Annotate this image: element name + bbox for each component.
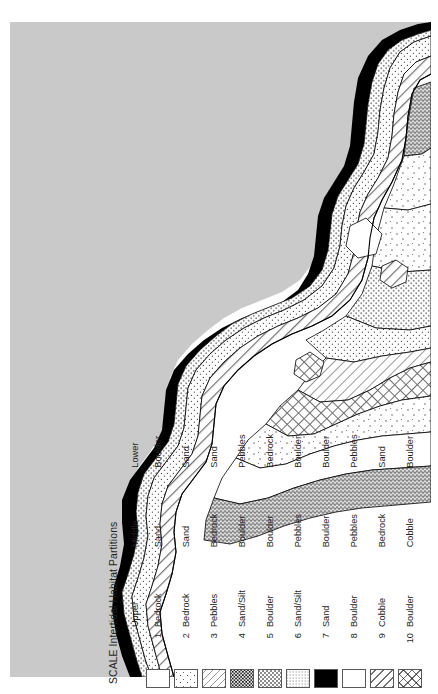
legend-cell-middle: Sand	[144, 468, 172, 548]
legend-row: 2BedrockSandSand	[172, 388, 200, 688]
legend-row: 1BedrockSandBoulder	[144, 388, 172, 688]
legend-title: SCALE Intertidal Habitat Partitions	[108, 392, 119, 684]
legend-cell-middle: Bedrock	[200, 468, 228, 548]
legend-swatch-cell	[144, 656, 172, 688]
legend-cell-upper: Boulder	[396, 547, 424, 627]
legend-cell-no: 4	[228, 627, 256, 656]
legend-swatch-cell	[312, 656, 340, 688]
legend-cell-upper: Boulder	[256, 547, 284, 627]
legend-cell-middle: Pebbles	[340, 468, 368, 548]
legend-cell-upper: Boulder	[340, 547, 368, 627]
legend-cell-upper: Pebbles	[200, 547, 228, 627]
legend-swatch-diagonal-hatch	[370, 669, 394, 688]
legend-cell-middle: Boulder	[256, 468, 284, 548]
legend-header-swatch	[130, 656, 144, 688]
legend-cell-no: 9	[368, 627, 396, 656]
legend-swatch-cell	[200, 656, 228, 688]
figure-root: SCALE Intertidal Habitat Partitions Uppe…	[0, 0, 438, 694]
legend-cell-no: 2	[172, 627, 200, 656]
legend-cell-lower: Sand	[368, 388, 396, 468]
legend-swatch-light-diagonal	[202, 669, 226, 688]
legend-header-upper: Upper	[130, 547, 144, 627]
legend-header-lower: Lower	[130, 388, 144, 468]
legend-cell-lower: Sand	[172, 388, 200, 468]
legend-cell-lower: Pebbles	[340, 388, 368, 468]
legend-cell-middle: Boulder	[312, 468, 340, 548]
legend-swatch-fine-stipple	[146, 669, 170, 688]
legend-cell-no: 10	[396, 627, 424, 656]
legend-cell-middle: Bedrock	[368, 468, 396, 548]
legend-cell-lower: Sand	[200, 388, 228, 468]
legend-row: 4Sand/SiltBoulderPebbles	[228, 388, 256, 688]
legend-header-row: Upper Middle Lower	[130, 388, 144, 688]
legend-cell-upper: Sand	[312, 547, 340, 627]
legend-swatch-dense-texture	[286, 669, 310, 688]
legend-cell-upper: Bedrock	[144, 547, 172, 627]
legend-cell-upper: Sand/Silt	[284, 547, 312, 627]
legend-swatch-cell	[172, 656, 200, 688]
legend-body: 1BedrockSandBoulder2BedrockSandSand3Pebb…	[144, 388, 424, 688]
legend-swatch-dense-speckle	[230, 669, 254, 688]
legend-cell-lower: Boulder	[312, 388, 340, 468]
legend-cell-no: 8	[340, 627, 368, 656]
legend-row: 8BoulderPebblesPebbles	[340, 388, 368, 688]
legend-cell-upper: Sand/Silt	[228, 547, 256, 627]
legend-cell-middle: Boulder	[228, 468, 256, 548]
legend-swatch-sparse-stipple	[174, 669, 198, 688]
legend-cell-upper: Cobble	[368, 547, 396, 627]
legend-row: 9CobbleBedrockSand	[368, 388, 396, 688]
legend-swatch-blank-white	[342, 669, 366, 688]
legend-cell-lower: Boulder	[396, 388, 424, 468]
legend-cell-lower: Bedrock	[256, 388, 284, 468]
legend-cell-no: 7	[312, 627, 340, 656]
legend-swatch-crosshatch	[398, 669, 422, 688]
legend-cell-lower: Pebbles	[228, 388, 256, 468]
legend-swatch-cell	[228, 656, 256, 688]
legend-cell-middle: Cobble	[396, 468, 424, 548]
legend-row: 3PebblesBedrockSand	[200, 388, 228, 688]
legend-row: 7SandBoulderBoulder	[312, 388, 340, 688]
legend-row: 6Sand/SiltPebblesBoulder	[284, 388, 312, 688]
legend-cell-middle: Pebbles	[284, 468, 312, 548]
legend-swatch-solid-black	[314, 669, 338, 688]
legend-cell-no: 5	[256, 627, 284, 656]
legend-cell-no: 1	[144, 627, 172, 656]
legend-row: 5BoulderBoulderBedrock	[256, 388, 284, 688]
legend-swatch-regular-dots	[258, 669, 282, 688]
legend-swatch-cell	[340, 656, 368, 688]
legend-swatch-cell	[256, 656, 284, 688]
legend-cell-no: 3	[200, 627, 228, 656]
legend-block: SCALE Intertidal Habitat Partitions Uppe…	[108, 388, 408, 688]
legend-cell-middle: Sand	[172, 468, 200, 548]
legend-cell-lower: Boulder	[284, 388, 312, 468]
legend-header-middle: Middle	[130, 468, 144, 548]
legend-swatch-cell	[396, 656, 424, 688]
legend-cell-no: 6	[284, 627, 312, 656]
legend-swatch-cell	[368, 656, 396, 688]
legend-cell-lower: Boulder	[144, 388, 172, 468]
legend-swatch-cell	[284, 656, 312, 688]
legend-row: 10BoulderCobbleBoulder	[396, 388, 424, 688]
legend-cell-upper: Bedrock	[172, 547, 200, 627]
legend-header-number	[130, 627, 144, 656]
legend-table: Upper Middle Lower 1BedrockSandBoulder2B…	[130, 388, 424, 688]
